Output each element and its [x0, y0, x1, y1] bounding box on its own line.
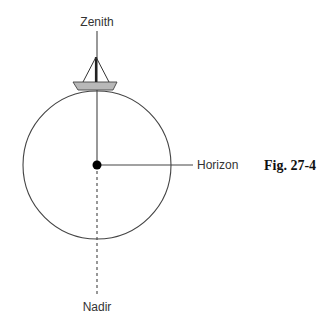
boat-icon	[73, 57, 117, 90]
figure-caption: Fig. 27-4	[264, 158, 316, 173]
celestial-sphere-diagram: Zenith Horizon Nadir Fig. 27-4	[0, 0, 329, 324]
nadir-label: Nadir	[83, 300, 112, 314]
boat-hull	[73, 82, 117, 90]
center-point	[93, 161, 102, 170]
horizon-label: Horizon	[197, 158, 238, 172]
boat-rigging-left	[83, 57, 96, 82]
boat-rigging-right	[96, 57, 109, 82]
zenith-label: Zenith	[80, 15, 113, 29]
